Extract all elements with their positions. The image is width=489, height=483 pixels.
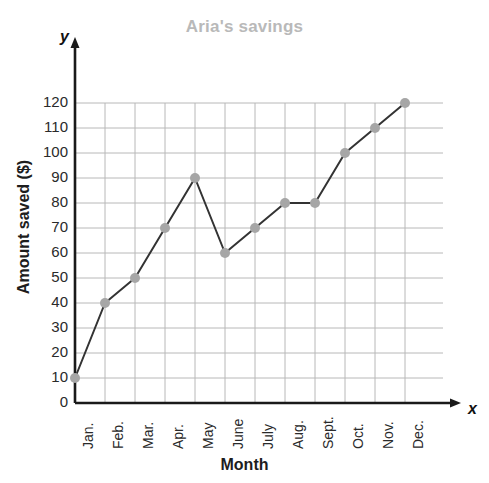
- x-tick-label: Dec.: [410, 420, 426, 449]
- data-point: [130, 273, 140, 283]
- x-axis-arrow: [450, 399, 461, 408]
- y-tick-label: 10: [24, 368, 68, 385]
- y-tick-label: 50: [24, 268, 68, 285]
- data-point: [100, 298, 110, 308]
- data-point: [190, 173, 200, 183]
- x-tick-label: May: [200, 423, 216, 449]
- y-tick-label: 40: [24, 293, 68, 310]
- x-tick-label: Jan.: [80, 423, 96, 449]
- data-point: [250, 223, 260, 233]
- line-chart: Aria's savings Amount saved ($) 01020304…: [0, 0, 489, 483]
- chart-plot-area: [0, 0, 489, 483]
- x-axis-letter: x: [468, 400, 477, 418]
- y-axis-arrow: [71, 37, 80, 48]
- y-tick-label: 100: [24, 143, 68, 160]
- y-axis-letter: y: [60, 28, 69, 46]
- y-tick-label: 80: [24, 193, 68, 210]
- horizontal-gridlines: [75, 103, 443, 378]
- data-point: [370, 123, 380, 133]
- y-tick-label: 20: [24, 343, 68, 360]
- x-tick-label: Sept.: [320, 416, 336, 449]
- y-tick-label: 120: [24, 93, 68, 110]
- x-tick-label: Mar.: [140, 422, 156, 449]
- x-tick-label: Oct.: [350, 423, 366, 449]
- data-point: [400, 98, 410, 108]
- y-tick-label: 110: [24, 118, 68, 135]
- x-tick-label: July: [260, 424, 276, 449]
- x-tick-label: Apr.: [170, 424, 186, 449]
- y-tick-label: 0: [24, 393, 68, 410]
- x-tick-label: June: [230, 419, 246, 449]
- x-tick-label: Feb.: [110, 421, 126, 449]
- x-tick-label: Aug.: [290, 420, 306, 449]
- y-tick-label: 90: [24, 168, 68, 185]
- data-point: [280, 198, 290, 208]
- data-point: [310, 198, 320, 208]
- data-point: [340, 148, 350, 158]
- x-axis-title: Month: [0, 456, 489, 474]
- data-line: [75, 103, 405, 378]
- data-point: [220, 248, 230, 258]
- y-tick-label: 70: [24, 218, 68, 235]
- data-point: [70, 373, 80, 383]
- y-tick-label: 30: [24, 318, 68, 335]
- chart-axes: [71, 37, 462, 408]
- y-axis-label-wrap: Amount saved ($): [0, 0, 46, 483]
- y-tick-label: 60: [24, 243, 68, 260]
- x-tick-label: Nov.: [380, 421, 396, 449]
- data-point: [160, 223, 170, 233]
